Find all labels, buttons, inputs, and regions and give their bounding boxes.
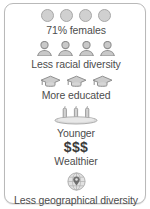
graduation-cap-icon (66, 75, 87, 88)
geographical-diversity-caption: Less geographical diversity (14, 194, 138, 206)
circle-face-icon-group (41, 9, 111, 22)
graduation-cap-icon (40, 75, 61, 88)
racial-diversity-caption: Less racial diversity (31, 58, 121, 70)
birthday-cake-icon-group (52, 106, 100, 125)
person-icon-group (36, 41, 116, 56)
birthday-cake-icon (52, 106, 100, 125)
circle-face-icon (41, 9, 54, 22)
younger-caption: Younger (57, 127, 95, 139)
globe-pin-icon (67, 172, 86, 191)
person-icon (36, 41, 53, 56)
person-icon (99, 41, 116, 56)
circle-face-icon (79, 9, 92, 22)
wealthier-caption: Wealthier (54, 155, 97, 167)
education-caption: More educated (42, 89, 111, 101)
card-content: 71% females Less racial diversity (5, 4, 147, 205)
infographic-card: 71% females Less racial diversity (4, 3, 146, 204)
graduation-cap-icon (92, 75, 113, 88)
money-symbol: $$$ (64, 140, 88, 155)
circle-face-icon (98, 9, 111, 22)
circle-face-icon (60, 9, 73, 22)
graduation-cap-icon-group (40, 75, 113, 88)
person-icon (78, 41, 95, 56)
globe-pin-icon-group (67, 172, 86, 191)
females-caption: 71% females (46, 24, 106, 36)
person-icon (57, 41, 74, 56)
